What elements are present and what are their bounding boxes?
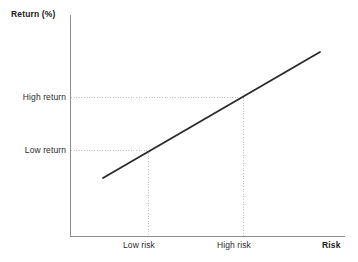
y-tick-label-low-return: Low return [25, 145, 66, 155]
y-tick-label-high-return: High return [23, 92, 66, 102]
y-axis-title: Return (%) [11, 9, 55, 19]
chart-plot-area [0, 0, 358, 262]
x-tick-label-low-risk: Low risk [123, 240, 155, 250]
x-axis-title: Risk [322, 240, 341, 250]
x-tick-label-high-risk: High risk [217, 240, 251, 250]
trend-line [103, 52, 320, 178]
risk-return-chart: Return (%) Risk High return Low return L… [0, 0, 358, 262]
